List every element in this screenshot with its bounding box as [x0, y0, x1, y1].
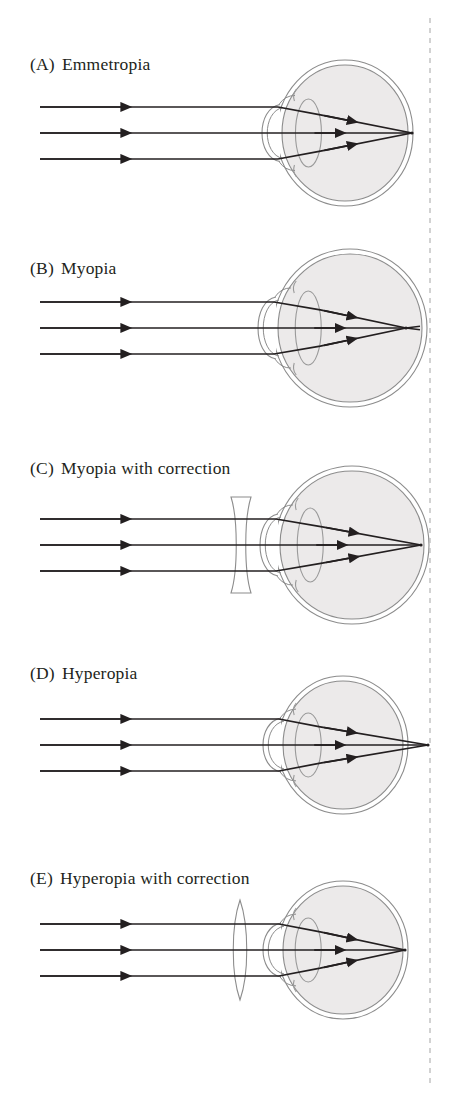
panel-label-a: (A)Emmetropia [30, 54, 150, 75]
panel-d [40, 676, 430, 814]
panel-tag-e: (E) [30, 868, 53, 888]
panel-label-b: (B)Myopia [30, 258, 117, 279]
eye-refraction-figure [0, 0, 461, 1100]
panel-label-c: (C)Myopia with correction [30, 458, 231, 479]
panel-label-d: (D)Hyperopia [30, 663, 138, 684]
panel-title-e: Hyperopia with correction [60, 868, 250, 888]
panel-title-b: Myopia [61, 258, 117, 278]
panel-c [40, 466, 429, 624]
focal-point [404, 326, 407, 329]
panel-e [40, 881, 408, 1019]
panel-tag-d: (D) [30, 663, 55, 683]
focal-point [426, 743, 429, 746]
focal-point [410, 131, 413, 134]
panel-tag-a: (A) [30, 54, 55, 74]
focal-point [419, 543, 422, 546]
panel-tag-c: (C) [30, 458, 54, 478]
panel-label-e: (E)Hyperopia with correction [30, 868, 250, 889]
panel-tag-b: (B) [30, 258, 54, 278]
panel-title-d: Hyperopia [62, 663, 138, 683]
panel-title-c: Myopia with correction [61, 458, 231, 478]
focal-point [403, 948, 406, 951]
panel-title-a: Emmetropia [62, 54, 151, 74]
panel-a [40, 60, 414, 206]
